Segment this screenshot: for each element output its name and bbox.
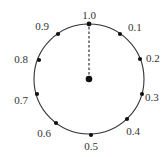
mark-dot — [140, 92, 144, 96]
center-dot — [86, 76, 93, 83]
mark-label: 0.7 — [14, 94, 28, 106]
mark-label: 0.3 — [145, 91, 159, 103]
mark-label: 1.0 — [82, 9, 96, 21]
mark-dot — [56, 32, 60, 36]
mark-dot — [125, 117, 129, 121]
mark-dot — [35, 92, 39, 96]
mark-dot — [54, 121, 58, 125]
circular-dial-diagram: 1.00.10.20.30.40.50.60.70.80.9 — [0, 0, 167, 157]
mark-dot — [138, 57, 142, 61]
mark-label: 0.2 — [146, 52, 160, 64]
mark-label: 0.5 — [84, 140, 98, 152]
mark-label: 0.6 — [37, 127, 51, 139]
mark-dot — [89, 133, 93, 137]
mark-dot — [87, 22, 92, 27]
mark-label: 0.1 — [128, 21, 142, 33]
mark-dot — [37, 58, 41, 62]
mark-label: 0.8 — [14, 53, 28, 65]
mark-label: 0.9 — [35, 20, 49, 32]
mark-dot — [118, 32, 122, 36]
mark-label: 0.4 — [126, 125, 140, 137]
